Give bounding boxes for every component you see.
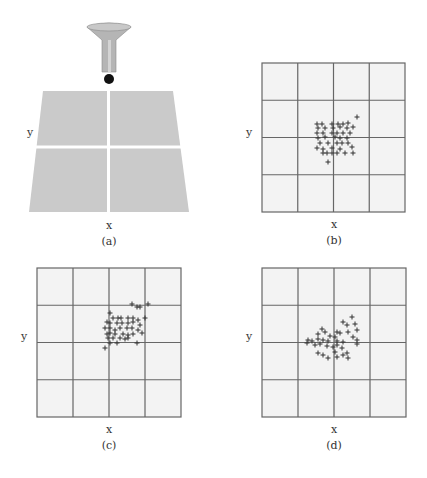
panel-a-funnel-target: x y (a): [26, 23, 189, 248]
panel-c-x-label: x: [106, 423, 113, 436]
funnel-icon: [87, 23, 131, 72]
panel-c-y-label: y: [20, 330, 28, 343]
panel-d-caption: (d): [326, 439, 342, 452]
panel-a-x-label: x: [106, 219, 113, 232]
panel-c-scatter-grid: x y (c): [20, 268, 181, 452]
panel-d-scatter-grid: x y (d): [245, 268, 406, 452]
panel-c-caption: (c): [102, 439, 117, 452]
target-quadrant: [110, 91, 180, 146]
target-plane: [29, 91, 189, 212]
panel-b-scatter-grid: x y (b): [245, 63, 405, 247]
grid: [262, 268, 406, 417]
panel-d-y-label: y: [245, 330, 253, 343]
target-quadrant: [37, 91, 107, 146]
panel-d-x-label: x: [331, 423, 338, 436]
panel-a-caption: (a): [101, 235, 116, 248]
panel-a-y-label: y: [26, 126, 34, 139]
figure-canvas: x y (a) x y (b) x y (c) x y (d): [0, 0, 427, 478]
target-quadrant: [29, 149, 107, 213]
funnel-rim: [87, 23, 131, 31]
panel-b-y-label: y: [245, 126, 253, 139]
panel-b-caption: (b): [326, 234, 342, 247]
target-quadrant: [110, 149, 189, 213]
funnel-highlight: [108, 40, 111, 72]
panel-b-x-label: x: [331, 218, 338, 231]
ball-icon: [104, 74, 114, 84]
